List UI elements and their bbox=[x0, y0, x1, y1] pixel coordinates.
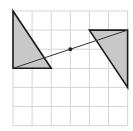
center-point bbox=[68, 47, 72, 51]
center-dot bbox=[68, 47, 72, 51]
rotation-symmetry-diagram bbox=[0, 0, 133, 131]
